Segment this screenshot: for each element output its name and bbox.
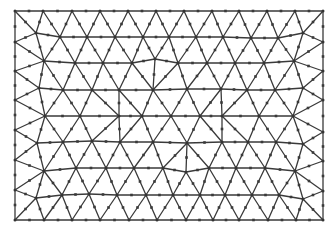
- vertex-node-marker: [322, 190, 325, 193]
- midside-node-marker: [268, 75, 271, 78]
- midside-node-marker: [288, 88, 291, 91]
- midside-node-marker: [52, 206, 55, 209]
- midside-node-marker: [214, 154, 217, 157]
- midside-node-marker: [92, 23, 95, 26]
- midside-node-marker: [312, 78, 315, 81]
- vertex-node-marker: [133, 167, 136, 170]
- midside-node-marker: [169, 10, 172, 13]
- midside-node-marker: [24, 36, 27, 39]
- vertex-node-marker: [234, 62, 237, 65]
- vertex-node-marker: [266, 10, 269, 13]
- midside-node-marker: [130, 128, 133, 131]
- midside-node-marker: [307, 65, 310, 68]
- midside-node-marker: [14, 204, 17, 207]
- vertex-node-marker: [14, 70, 17, 73]
- vertex-node-marker: [183, 10, 186, 13]
- vertex-node-marker: [302, 198, 305, 201]
- midside-node-marker: [65, 23, 68, 26]
- midside-node-marker: [107, 206, 110, 209]
- midside-node-marker: [40, 128, 43, 131]
- midside-node-marker: [297, 73, 300, 76]
- midside-node-marker: [322, 204, 325, 207]
- vertex-node-marker: [155, 10, 158, 13]
- vertex-node-marker: [14, 159, 17, 162]
- midside-node-marker: [148, 47, 151, 50]
- vertex-node-marker: [168, 36, 171, 39]
- midside-node-marker: [189, 23, 192, 26]
- midside-node-marker: [59, 168, 62, 171]
- midside-node-marker: [141, 10, 144, 13]
- midside-node-marker: [118, 102, 121, 105]
- midside-node-marker: [298, 208, 301, 211]
- midside-node-marker: [254, 75, 257, 78]
- vertex-node-marker: [142, 36, 145, 39]
- midside-node-marker: [52, 74, 55, 77]
- midside-node-marker: [142, 219, 145, 222]
- vertex-node-marker: [302, 87, 305, 90]
- midside-node-marker: [203, 23, 206, 26]
- vertex-node-marker: [322, 219, 325, 222]
- midside-node-marker: [14, 84, 17, 87]
- midside-node-marker: [116, 62, 119, 65]
- midside-node-marker: [192, 128, 195, 131]
- midside-node-marker: [50, 23, 53, 26]
- midside-node-marker: [312, 21, 315, 24]
- midside-node-marker: [80, 49, 83, 52]
- vertex-node-marker: [267, 219, 270, 222]
- midside-node-marker: [76, 89, 79, 92]
- midside-node-marker: [312, 137, 315, 140]
- midside-node-marker: [209, 101, 212, 104]
- midside-node-marker: [203, 141, 206, 144]
- midside-node-marker: [40, 73, 43, 76]
- vertex-node-marker: [170, 115, 173, 118]
- vertex-node-marker: [275, 141, 278, 144]
- midside-node-marker: [281, 219, 284, 222]
- midside-node-marker: [283, 102, 286, 105]
- vertex-node-marker: [294, 170, 297, 173]
- vertex-node-marker: [186, 88, 189, 91]
- midside-node-marker: [298, 184, 301, 187]
- midside-node-marker: [258, 23, 261, 26]
- midside-node-marker: [241, 154, 244, 157]
- midside-node-marker: [122, 49, 125, 52]
- vertex-node-marker: [220, 88, 223, 91]
- vertex-node-marker: [208, 167, 211, 170]
- midside-node-marker: [57, 219, 60, 222]
- midside-node-marker: [51, 48, 54, 51]
- vertex-node-marker: [35, 32, 38, 35]
- midside-node-marker: [308, 219, 311, 222]
- midside-node-marker: [227, 75, 230, 78]
- midside-node-marker: [264, 194, 267, 197]
- midside-node-marker: [136, 206, 139, 209]
- midside-node-marker: [153, 180, 156, 183]
- vertex-node-marker: [79, 115, 82, 118]
- midside-node-marker: [285, 23, 288, 26]
- midside-node-marker: [225, 219, 228, 222]
- midside-node-marker: [94, 49, 97, 52]
- midside-node-marker: [161, 128, 164, 131]
- midside-node-marker: [155, 36, 158, 39]
- vertex-node-marker: [102, 62, 105, 65]
- vertex-node-marker: [162, 167, 165, 170]
- midside-node-marker: [290, 196, 293, 199]
- midside-node-marker: [38, 21, 41, 24]
- midside-node-marker: [24, 193, 27, 196]
- vertex-node-marker: [118, 115, 121, 118]
- midside-node-marker: [297, 101, 300, 104]
- midside-node-marker: [112, 154, 115, 157]
- midside-node-marker: [233, 88, 236, 91]
- midside-node-marker: [297, 129, 300, 132]
- midside-node-marker: [308, 165, 311, 168]
- midside-node-marker: [14, 114, 17, 117]
- midside-node-marker: [167, 180, 170, 183]
- midside-node-marker: [70, 128, 73, 131]
- vertex-node-marker: [293, 60, 296, 63]
- vertex-node-marker: [14, 219, 17, 222]
- vertex-node-marker: [186, 142, 189, 145]
- midside-node-marker: [72, 36, 75, 39]
- vertex-node-marker: [38, 87, 41, 90]
- vertex-node-marker: [235, 167, 238, 170]
- vertex-node-marker: [35, 197, 38, 200]
- vertex-node-marker: [206, 62, 209, 65]
- vertex-node-marker: [292, 115, 295, 118]
